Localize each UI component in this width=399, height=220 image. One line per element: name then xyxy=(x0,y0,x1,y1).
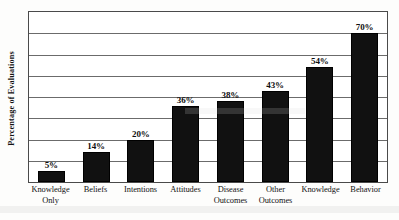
bar-value-label: 36% xyxy=(163,95,208,105)
x-axis-category-line1: Intentions xyxy=(124,185,157,194)
x-axis-category-line1: Beliefs xyxy=(84,185,107,194)
bar[interactable] xyxy=(262,91,289,182)
x-axis-category-label: Intentions xyxy=(118,185,163,219)
x-axis-category-line1: Other xyxy=(266,185,285,194)
plot-area: 5%14%20%36%38%43%54%70% xyxy=(28,11,388,183)
x-axis-category-line1: Knowledge xyxy=(301,185,339,194)
x-axis-category-label: Behavior xyxy=(343,185,388,219)
y-axis-title-label: Percentage of Evaluations xyxy=(7,51,16,146)
bar-value-label: 38% xyxy=(208,90,253,100)
bar-value-label: 5% xyxy=(29,160,74,170)
bar[interactable] xyxy=(38,171,65,182)
x-axis-category-label: Knowledge xyxy=(298,185,343,219)
bar-slot: 54% xyxy=(298,12,343,182)
bar[interactable] xyxy=(306,67,333,182)
x-axis-category-label: Attitudes xyxy=(163,185,208,219)
bar-slot: 70% xyxy=(342,12,387,182)
bar-slot: 43% xyxy=(253,12,298,182)
bar-value-label: 43% xyxy=(253,80,298,90)
y-axis-title: Percentage of Evaluations xyxy=(2,16,20,181)
x-axis-category-label: OtherOutcomes xyxy=(253,185,298,219)
x-axis-category-line2: Outcomes xyxy=(208,196,253,207)
x-axis-category-line1: Knowledge xyxy=(31,185,69,194)
bar[interactable] xyxy=(217,101,244,182)
x-axis-category-label: DiseaseOutcomes xyxy=(208,185,253,219)
bar[interactable] xyxy=(127,140,154,183)
bar-slot: 36% xyxy=(163,12,208,182)
bar-slot: 5% xyxy=(29,12,74,182)
x-axis-category-line2: Only xyxy=(28,196,73,207)
x-axis-category-line1: Behavior xyxy=(350,185,380,194)
bar[interactable] xyxy=(83,152,110,182)
x-axis-labels: KnowledgeOnlyBeliefsIntentionsAttitudesD… xyxy=(28,185,388,219)
bar-value-label: 14% xyxy=(74,141,119,151)
x-axis-category-label: Beliefs xyxy=(73,185,118,219)
bar-chart-figure: Percentage of Evaluations 5%14%20%36%38%… xyxy=(0,0,399,220)
bar-value-label: 70% xyxy=(342,22,387,32)
bar-slot: 20% xyxy=(119,12,164,182)
bar[interactable] xyxy=(351,33,378,182)
x-axis-category-label: KnowledgeOnly xyxy=(28,185,73,219)
bar-slot: 14% xyxy=(74,12,119,182)
x-axis-category-line2: Outcomes xyxy=(253,196,298,207)
bar-value-label: 54% xyxy=(298,56,343,66)
x-axis-category-line1: Attitudes xyxy=(170,185,200,194)
bars-layer: 5%14%20%36%38%43%54%70% xyxy=(29,12,387,182)
bar[interactable] xyxy=(172,106,199,183)
bar-slot: 38% xyxy=(208,12,253,182)
bar-value-label: 20% xyxy=(119,129,164,139)
x-axis-category-line1: Disease xyxy=(218,185,244,194)
